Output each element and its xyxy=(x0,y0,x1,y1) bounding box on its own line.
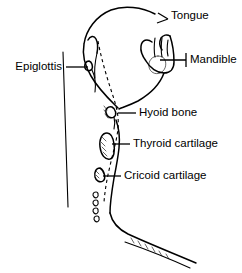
tooth-incisor-3 xyxy=(167,40,168,56)
label-mandible: Mandible xyxy=(190,53,237,65)
hatch-line xyxy=(145,244,148,249)
tracheal-ring xyxy=(93,208,98,214)
hatch-line xyxy=(101,142,105,146)
airway-lateral-view-figure: TongueMandibleEpiglottisHyoid boneThyroi… xyxy=(0,0,242,273)
hatch-line xyxy=(152,247,155,252)
posterior-wall-line xyxy=(63,52,68,207)
label-group: TongueMandibleEpiglottisHyoid boneThyroi… xyxy=(15,9,236,181)
soft-palate-outline xyxy=(88,36,98,53)
cricoid-hatching xyxy=(96,171,99,178)
tooth-incisor-2 xyxy=(161,38,162,57)
label-hyoid-bone: Hyoid bone xyxy=(139,106,197,118)
mandible-body-outline xyxy=(141,36,174,73)
hyoid-tail xyxy=(114,117,115,129)
tracheal-rings xyxy=(93,192,99,222)
sternum-hatching xyxy=(131,238,169,259)
label-tongue: Tongue xyxy=(171,9,209,21)
hatch-line xyxy=(102,147,106,151)
tracheal-ring xyxy=(93,192,98,198)
pharynx-front-wall xyxy=(95,53,97,78)
anatomy-diagram: TongueMandibleEpiglottisHyoid boneThyroi… xyxy=(0,0,242,273)
chest-outline xyxy=(110,213,196,263)
tracheal-ring xyxy=(94,216,99,222)
leader-line-tongue xyxy=(157,13,168,23)
label-thyroid-cartilage: Thyroid cartilage xyxy=(133,137,218,149)
hatch-line xyxy=(102,137,106,141)
hatch-line xyxy=(96,175,99,178)
hatch-line xyxy=(96,171,99,174)
tooth-incisor-1 xyxy=(154,38,155,57)
larynx-front-contour xyxy=(110,120,119,213)
hyoid-bone-shape xyxy=(106,107,116,118)
label-epiglottis: Epiglottis xyxy=(15,60,62,72)
sternum-lower-outline xyxy=(125,242,190,268)
jawline-to-hyoid xyxy=(119,73,164,109)
tracheal-ring xyxy=(93,200,98,206)
hatch-line xyxy=(131,238,134,243)
hatch-line xyxy=(138,241,141,246)
label-cricoid-cartilage: Cricoid cartilage xyxy=(124,169,206,181)
